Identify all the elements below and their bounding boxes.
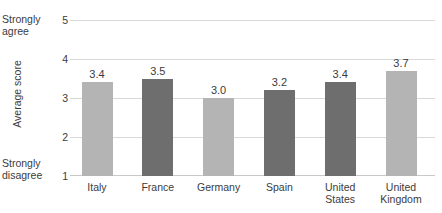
y-axis-title: Average score (11, 46, 23, 142)
y-tick-5: 5 (58, 15, 68, 25)
y-tick-4: 4 (58, 54, 68, 64)
category-label-france: France (127, 182, 189, 194)
bar-chart: Strongly agree Strongly disagree Average… (0, 0, 442, 213)
bar-value-italy: 3.4 (77, 68, 117, 80)
category-label-germany: Germany (188, 182, 250, 194)
bar-germany (203, 98, 234, 176)
bar-value-united-kingdom: 3.7 (381, 57, 421, 69)
bar-italy (82, 82, 113, 176)
scale-anchor-high: Strongly agree (2, 14, 56, 37)
gridline-2 (70, 137, 435, 138)
gridline-3 (70, 98, 435, 99)
category-label-spain: Spain (248, 182, 310, 194)
bar-value-united-states: 3.4 (320, 68, 360, 80)
bar-united-states (325, 82, 356, 176)
y-tick-2: 2 (58, 132, 68, 142)
category-label-united-states: United States (309, 182, 371, 205)
bar-united-kingdom (386, 71, 417, 176)
y-tick-3: 3 (58, 93, 68, 103)
bar-spain (264, 90, 295, 176)
gridline-1-baseline (70, 175, 435, 176)
bar-france (142, 79, 173, 177)
category-label-italy: Italy (66, 182, 128, 194)
scale-anchor-low: Strongly disagree (2, 158, 56, 181)
plot-area (70, 20, 435, 176)
category-label-united-kingdom: United Kingdom (370, 182, 432, 205)
bar-value-spain: 3.2 (259, 76, 299, 88)
bar-value-germany: 3.0 (199, 84, 239, 96)
bar-value-france: 3.5 (138, 65, 178, 77)
gridline-5 (70, 20, 435, 21)
y-tick-1: 1 (58, 171, 68, 181)
